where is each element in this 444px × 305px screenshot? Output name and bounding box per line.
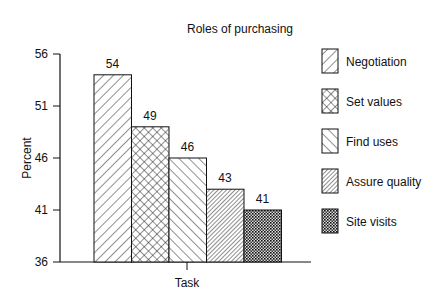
y-tick-label: 51 [35, 99, 49, 113]
legend-swatch [322, 169, 338, 193]
data-label: 46 [181, 140, 195, 154]
legend: Negotiation Set values Find uses Assure … [322, 49, 421, 233]
legend-swatch [322, 129, 338, 153]
y-tick-label: 46 [35, 151, 49, 165]
legend-label: Site visits [346, 215, 397, 229]
bar-set-values [132, 127, 170, 262]
legend-label: Negotiation [346, 55, 407, 69]
legend-label: Find uses [346, 135, 398, 149]
bar-assure-quality [207, 189, 245, 262]
legend-swatch [322, 49, 338, 73]
y-axis-label: Percent [20, 137, 34, 179]
legend-label: Assure quality [346, 175, 421, 189]
bar-find-uses [169, 158, 207, 262]
bars [94, 75, 282, 262]
bar-negotiation [94, 75, 132, 262]
y-ticks: 56 51 46 41 36 [35, 47, 60, 269]
x-axis-label: Task [175, 276, 201, 290]
chart: Roles of purchasing 56 51 46 41 36 Perce… [0, 0, 444, 305]
data-label: 43 [218, 171, 232, 185]
legend-swatch [322, 89, 338, 113]
data-label: 54 [106, 57, 120, 71]
data-label: 41 [256, 192, 270, 206]
y-tick-label: 41 [35, 203, 49, 217]
legend-swatch [322, 209, 338, 233]
legend-label: Set values [346, 95, 402, 109]
data-label: 49 [143, 109, 157, 123]
bar-site-visits [244, 210, 282, 262]
y-tick-label: 36 [35, 255, 49, 269]
chart-title: Roles of purchasing [187, 22, 293, 36]
y-tick-label: 56 [35, 47, 49, 61]
